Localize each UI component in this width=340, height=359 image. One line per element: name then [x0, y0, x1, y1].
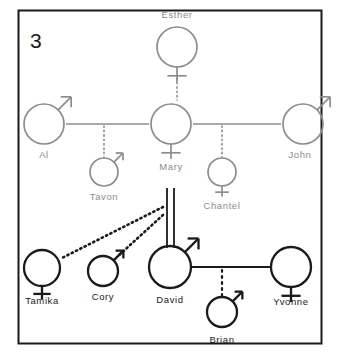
person-circle-al [24, 104, 64, 144]
person-node-chantel[interactable]: Chantel [204, 158, 241, 211]
person-circle-chantel [208, 158, 236, 186]
person-label-david: David [156, 294, 183, 305]
male-symbol-shaft-brian [233, 292, 243, 302]
person-label-yvonne: Yvonne [273, 296, 308, 307]
person-node-yvonne[interactable]: Yvonne [271, 247, 311, 307]
person-label-esther: Esther [161, 9, 192, 20]
male-symbol-shaft-cory [114, 251, 124, 261]
nodes-layer: EstherAlMaryJohnTavonChantelTamikaCoryDa… [24, 9, 330, 345]
person-node-esther[interactable]: Esther [157, 9, 197, 82]
person-circle-john [283, 104, 323, 144]
person-label-brian: Brian [209, 334, 234, 345]
person-label-mary: Mary [159, 161, 183, 172]
person-node-tavon[interactable]: Tavon [90, 153, 123, 202]
person-label-tavon: Tavon [90, 191, 118, 202]
person-label-john: John [288, 149, 311, 160]
male-symbol-shaft-al [58, 97, 71, 110]
person-circle-cory [88, 256, 118, 286]
person-circle-david [149, 246, 191, 288]
person-label-chantel: Chantel [204, 200, 241, 211]
genogram-panel: EstherAlMaryJohnTavonChantelTamikaCoryDa… [0, 0, 340, 359]
person-node-david[interactable]: David [149, 238, 199, 305]
person-circle-brian [207, 297, 237, 327]
person-node-john[interactable]: John [283, 97, 330, 160]
person-node-cory[interactable]: Cory [88, 251, 123, 302]
genogram-canvas: EstherAlMaryJohnTavonChantelTamikaCoryDa… [0, 0, 340, 359]
person-node-al[interactable]: Al [24, 97, 71, 160]
person-circle-tamika [24, 250, 60, 286]
person-circle-yvonne [271, 247, 311, 287]
male-symbol-shaft-john [317, 97, 330, 110]
person-label-cory: Cory [92, 291, 114, 302]
connections-layer [62, 78, 281, 296]
person-node-tamika[interactable]: Tamika [24, 250, 60, 306]
male-symbol-shaft-david [185, 238, 199, 252]
male-symbol-shaft-tavon [114, 153, 123, 162]
person-circle-mary [151, 104, 191, 144]
connection-david-tamika [62, 207, 163, 258]
person-label-al: Al [39, 149, 49, 160]
person-node-mary[interactable]: Mary [151, 104, 191, 172]
panel-number: 3 [30, 29, 42, 52]
person-circle-esther [157, 27, 197, 67]
person-node-brian[interactable]: Brian [207, 292, 242, 345]
person-circle-tavon [90, 158, 118, 186]
person-label-tamika: Tamika [25, 295, 59, 306]
